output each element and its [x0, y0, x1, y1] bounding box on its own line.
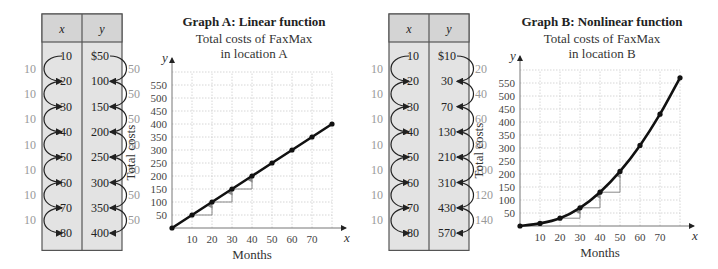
data-point [329, 121, 334, 126]
x-difference: 10 [371, 213, 383, 227]
x-difference: 10 [24, 163, 36, 177]
data-point [169, 225, 174, 230]
y-tick-label: 250 [499, 155, 516, 167]
data-point [577, 205, 582, 210]
graph-b: xy10203040506070501001502002503003504004… [471, 14, 698, 260]
data-point [229, 186, 234, 191]
table-header-y: y [98, 22, 105, 36]
x-difference: 10 [24, 188, 36, 202]
y-difference: 20 [475, 62, 487, 76]
data-point [189, 212, 194, 217]
y-tick-label: 50 [156, 209, 168, 221]
x-tick-label: 60 [287, 233, 299, 245]
x-tick-label: 10 [535, 231, 547, 243]
table-cell-y: 570 [438, 226, 456, 240]
table-cell-y: 70 [441, 100, 453, 114]
y-tick-label: 400 [151, 118, 168, 130]
table-cell-y: 430 [438, 201, 456, 215]
x-tick-label: 50 [615, 231, 627, 243]
table-cell-y: 200 [91, 125, 109, 139]
x-difference: 10 [24, 112, 36, 126]
x-axis-var: x [343, 230, 350, 245]
y-axis-var: y [508, 48, 516, 63]
x-tick-label: 20 [555, 231, 567, 243]
y-tick-label: 300 [151, 144, 168, 156]
table-cell-y: 310 [438, 176, 456, 190]
chart-subtitle: in location A [220, 46, 288, 61]
y-difference: 50 [128, 112, 140, 126]
x-difference: 10 [24, 138, 36, 152]
data-point [617, 169, 622, 174]
x-difference: 10 [371, 163, 383, 177]
y-axis-label: Total costs [471, 123, 486, 179]
table-cell-y: 100 [91, 74, 109, 88]
y-tick-label: 350 [151, 131, 168, 143]
data-point [269, 160, 274, 165]
x-tick-label: 60 [635, 231, 647, 243]
x-tick-label: 70 [307, 233, 319, 245]
y-difference: 50 [128, 62, 140, 76]
y-tick-label: 350 [499, 129, 516, 141]
y-tick-label: 100 [499, 194, 516, 206]
x-tick-label: 30 [575, 231, 587, 243]
data-point [637, 143, 642, 148]
data-point [537, 221, 542, 226]
x-tick-label: 70 [655, 231, 667, 243]
data-point [309, 134, 314, 139]
y-difference: 50 [128, 87, 140, 101]
x-tick-label: 40 [595, 231, 607, 243]
y-difference: 140 [475, 213, 493, 227]
x-difference: 10 [371, 112, 383, 126]
x-axis-var: x [691, 228, 698, 243]
y-tick-label: 500 [151, 92, 168, 104]
y-difference: 50 [128, 213, 140, 227]
x-difference: 10 [24, 62, 36, 76]
chart-title: Graph A: Linear function [182, 14, 326, 29]
data-point [289, 147, 294, 152]
y-tick-label: 300 [499, 142, 516, 154]
x-difference: 10 [371, 62, 383, 76]
y-difference: 120 [475, 188, 493, 202]
y-tick-label: 150 [151, 183, 168, 195]
x-tick-label: 20 [207, 233, 219, 245]
data-point [657, 112, 662, 117]
x-axis-label: Months [232, 247, 272, 262]
y-difference: 50 [128, 188, 140, 202]
y-tick-label: 450 [151, 105, 168, 117]
y-tick-label: 250 [151, 157, 168, 169]
chart-subtitle: Total costs of FaxMax [196, 31, 313, 46]
y-tick-label: 400 [499, 116, 516, 128]
chart-subtitle: in location B [568, 46, 635, 61]
y-tick-label: 100 [151, 196, 168, 208]
y-tick-label: 200 [499, 168, 516, 180]
x-difference: 10 [371, 188, 383, 202]
chart-title: Graph B: Nonlinear function [521, 14, 683, 29]
y-tick-label: 550 [151, 79, 168, 91]
x-difference: 10 [24, 87, 36, 101]
y-tick-label: 150 [499, 181, 516, 193]
table-cell-y: 130 [438, 125, 456, 139]
graph-a: xy10203040506070501001502002503003504004… [123, 14, 350, 262]
table-header-y: y [445, 22, 452, 36]
y-tick-label: 500 [499, 90, 516, 102]
table-cell-y: 210 [438, 150, 456, 164]
x-tick-label: 50 [267, 233, 279, 245]
table-cell-y: $50 [91, 49, 109, 63]
y-axis-var: y [160, 50, 168, 65]
y-tick-label: 200 [151, 170, 168, 182]
x-difference: 10 [371, 87, 383, 101]
table-cell-y: 250 [91, 150, 109, 164]
table-cell-y: 150 [91, 100, 109, 114]
table-header-x: x [58, 22, 65, 36]
table-header-x: x [405, 22, 412, 36]
data-point [249, 173, 254, 178]
data-point [597, 190, 602, 195]
table-cell-y: $10 [438, 49, 456, 63]
table-cell-y: 400 [91, 226, 109, 240]
table-cell-y: 350 [91, 201, 109, 215]
figure-canvas: xy10$50201003015040200502506030070350804… [0, 0, 718, 269]
x-difference: 10 [371, 138, 383, 152]
table-cell-y: 30 [441, 74, 453, 88]
y-tick-label: 50 [504, 207, 516, 219]
y-tick-label: 550 [499, 77, 516, 89]
